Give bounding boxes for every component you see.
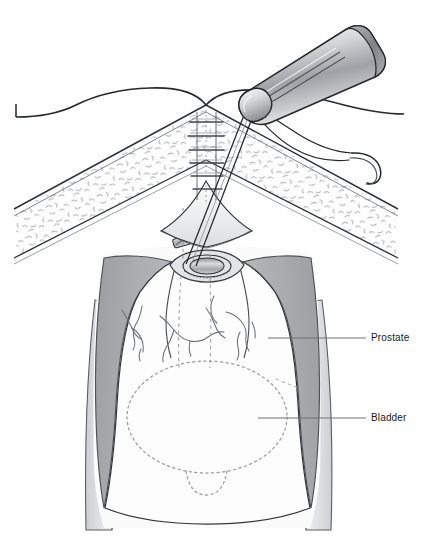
label-bladder: Bladder (371, 413, 407, 423)
anatomy-illustration-canvas (0, 0, 435, 558)
label-prostate: Prostate (371, 333, 409, 343)
medical-illustration-figure: Prostate Bladder (0, 0, 435, 558)
urethral-lumen (190, 258, 224, 274)
